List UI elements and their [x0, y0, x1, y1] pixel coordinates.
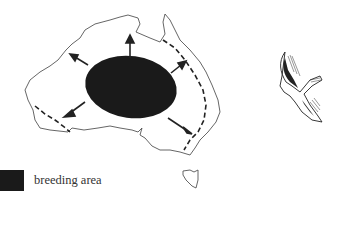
tasmania-outline: [183, 170, 198, 188]
breeding-area: [81, 50, 181, 124]
arrow-north: [126, 35, 134, 58]
arrow-northwest: [70, 54, 88, 65]
legend: breeding area: [0, 170, 102, 191]
arrow-northeast: [171, 61, 186, 73]
legend-label: breeding area: [34, 173, 102, 188]
bird-illustration: [270, 50, 330, 125]
arrow-southeast: [168, 118, 192, 134]
legend-swatch-breeding-area: [0, 170, 24, 191]
arrow-southwest: [64, 102, 85, 117]
